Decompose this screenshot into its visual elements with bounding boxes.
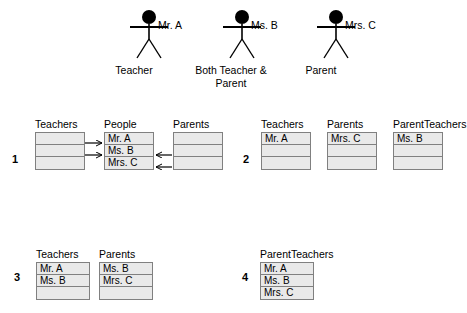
table-row: Mr. A [261, 263, 313, 275]
stick-figure-1 [126, 8, 172, 60]
figure-name-label: Ms. B [251, 20, 278, 31]
table-box: Mrs. C [327, 132, 377, 170]
table-row: Mrs. C [105, 157, 153, 169]
table-row: Mrs. C [261, 287, 313, 299]
table-row [174, 145, 222, 157]
table-title: People [104, 118, 154, 131]
table-box [35, 132, 85, 170]
table-box: Mr. AMs. BMrs. C [104, 132, 154, 170]
table-row: Mr. A [37, 263, 89, 275]
table-title: ParentTeachers [260, 248, 334, 261]
table-box: Mr. AMs. B [36, 262, 90, 300]
table-block: TeachersMr. A [261, 118, 311, 170]
table-row [100, 287, 152, 299]
table-row [36, 133, 84, 145]
table-row: Ms. B [37, 275, 89, 287]
table-title: Parents [173, 118, 223, 131]
table-row [36, 157, 84, 169]
table-block: TeachersMr. AMs. B [36, 248, 90, 300]
stick-figure-icon [126, 8, 172, 60]
table-row: Mrs. C [100, 275, 152, 287]
table-block: ParentTeachersMr. AMs. BMrs. C [260, 248, 334, 300]
table-title: Teachers [261, 118, 311, 131]
table-title: Teachers [35, 118, 85, 131]
table-title: ParentTeachers [393, 118, 467, 131]
table-row: Ms. B [105, 145, 153, 157]
table-row [394, 157, 442, 169]
table-box: Mr. A [261, 132, 311, 170]
table-box: Ms. BMrs. C [99, 262, 153, 300]
table-row: Mr. A [262, 133, 310, 145]
table-block: ParentTeachersMs. B [393, 118, 467, 170]
table-title: Teachers [36, 248, 90, 261]
table-block: ParentsMrs. C [327, 118, 377, 170]
table-row [36, 145, 84, 157]
table-block: Parents [173, 118, 223, 170]
table-row [394, 145, 442, 157]
table-row [262, 145, 310, 157]
table-row: Ms. B [394, 133, 442, 145]
legend-stick-figures: Mr. ATeacherMs. BBoth Teacher & ParentMr… [0, 0, 462, 96]
table-title: Parents [327, 118, 377, 131]
section-number-label: 2 [243, 153, 249, 165]
table-row [174, 133, 222, 145]
table-row: Mr. A [105, 133, 153, 145]
stick-figure-icon [219, 8, 265, 60]
table-block: Teachers [35, 118, 85, 170]
stick-figure-icon [313, 8, 359, 60]
figure-role-label: Teacher [94, 64, 174, 77]
table-title: Parents [99, 248, 153, 261]
figure-role-label: Parent [281, 64, 361, 77]
section-number-label: 3 [14, 271, 20, 283]
table-box [173, 132, 223, 170]
table-row: Ms. B [100, 263, 152, 275]
table-row: Ms. B [261, 275, 313, 287]
stick-figure-2 [219, 8, 265, 60]
section-number-label: 4 [242, 271, 248, 283]
table-box: Ms. B [393, 132, 443, 170]
table-row: Mrs. C [328, 133, 376, 145]
figure-name-label: Mr. A [158, 20, 182, 31]
figure-role-label: Both Teacher & Parent [183, 64, 279, 89]
section-number-label: 1 [12, 153, 18, 165]
table-row [328, 145, 376, 157]
table-block: ParentsMs. BMrs. C [99, 248, 153, 300]
table-row [37, 287, 89, 299]
table-row [328, 157, 376, 169]
table-block: PeopleMr. AMs. BMrs. C [104, 118, 154, 170]
table-box: Mr. AMs. BMrs. C [260, 262, 314, 300]
table-row [174, 157, 222, 169]
table-row [262, 157, 310, 169]
figure-name-label: Mrs. C [345, 20, 376, 31]
stick-figure-3 [313, 8, 359, 60]
